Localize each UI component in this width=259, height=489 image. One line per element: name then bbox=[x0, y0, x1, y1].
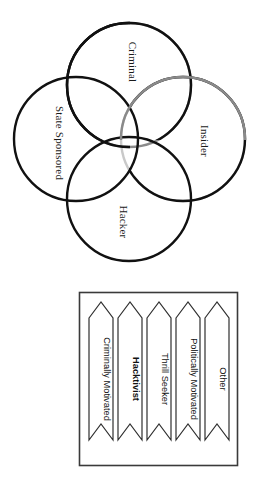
chevron-thrill-seeker[interactable]: Thrill Seeker bbox=[147, 302, 171, 440]
chevron-politically-motivated[interactable]: Politically Motivated bbox=[176, 302, 200, 440]
chevron-label: Politically Motivated bbox=[189, 338, 199, 420]
chevron-label: Hacktivist bbox=[131, 357, 141, 401]
chevron-label: Criminally Motivated bbox=[102, 337, 112, 421]
chevron-hacktivist[interactable]: Hacktivist bbox=[118, 302, 142, 440]
chevron-label: Thrill Seeker bbox=[160, 353, 170, 405]
chevron-other[interactable]: Other bbox=[205, 302, 229, 440]
chevron-label: Other bbox=[218, 367, 228, 390]
categories-box: Criminally Motivated Hacktivist Thrill S… bbox=[0, 0, 259, 489]
chevron-criminally-motivated[interactable]: Criminally Motivated bbox=[89, 302, 113, 440]
figure-root: Criminal State Sponsored Insider Hacker … bbox=[0, 0, 259, 489]
